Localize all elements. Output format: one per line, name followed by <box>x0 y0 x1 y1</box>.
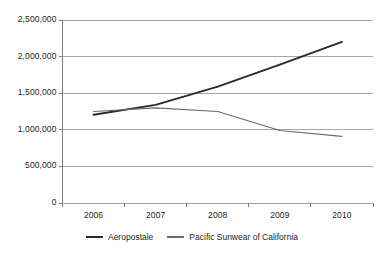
chart-legend: AeropostalePacific Sunwear of California <box>0 232 384 242</box>
legend-item[interactable]: Pacific Sunwear of California <box>167 232 298 242</box>
x-axis-tick-label: 2007 <box>126 210 186 220</box>
x-axis-tick-label: 2006 <box>64 210 124 220</box>
legend-label: Aeropostale <box>108 232 153 242</box>
x-axis-ticks <box>63 203 374 207</box>
x-axis-tick-label: 2009 <box>250 210 310 220</box>
x-axis-tick-label: 2008 <box>188 210 248 220</box>
legend-label: Pacific Sunwear of California <box>189 232 298 242</box>
legend-item[interactable]: Aeropostale <box>86 232 153 242</box>
series-line-1 <box>94 108 342 137</box>
clipped-caption <box>22 258 222 266</box>
legend-line-swatch <box>167 236 184 237</box>
plot-area <box>0 0 384 266</box>
line-chart: 0500,0001,000,0001,500,0002,000,0002,500… <box>0 0 384 266</box>
legend-line-swatch <box>86 236 103 238</box>
x-axis-tick-label: 2010 <box>312 210 372 220</box>
series-line-0 <box>94 42 342 115</box>
